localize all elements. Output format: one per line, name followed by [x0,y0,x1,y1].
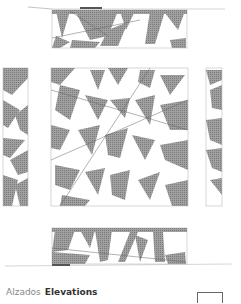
caption-spanish: Alzados [6,287,41,297]
main-elevation [51,68,188,206]
north-elevation [52,10,187,48]
scale-bar [197,292,223,303]
west-elevation [3,68,28,206]
elevations-drawing [0,0,241,304]
east-elevation [206,68,222,206]
caption-english: Elevations [45,287,98,297]
south-elevation [52,228,187,264]
figure-caption: AlzadosElevations [6,287,97,297]
top-ground-line [28,7,225,9]
